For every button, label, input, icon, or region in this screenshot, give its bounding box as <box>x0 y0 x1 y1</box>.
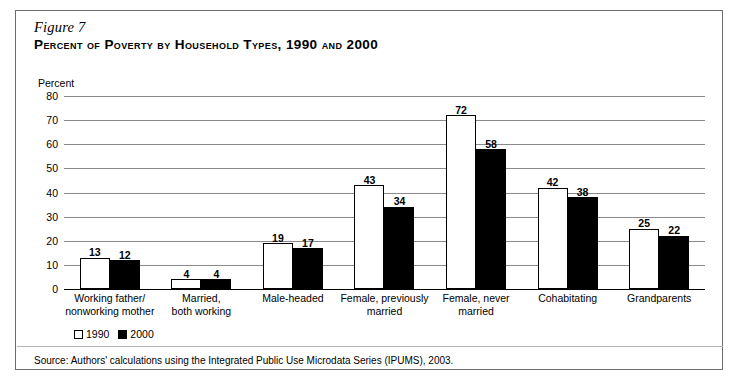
y-tick-label: 20 <box>46 236 58 247</box>
legend-item-2000[interactable]: 2000 <box>118 329 153 340</box>
x-tick-label-line: nonworking mother <box>64 305 156 318</box>
x-tick-label-line: Working father/ <box>64 292 156 305</box>
y-tick-label: 40 <box>46 187 58 198</box>
x-tick-label-line: married <box>430 305 522 318</box>
x-tick-label-line: both working <box>156 305 248 318</box>
bar-1990[interactable]: 43 <box>354 185 384 289</box>
x-tick-label-line: married <box>339 305 431 318</box>
bar-value-label: 42 <box>547 177 559 188</box>
source-note: Source: Authors' calculations using the … <box>34 355 453 366</box>
bar-1990[interactable]: 19 <box>263 243 293 289</box>
bars-layer: 13124419174334725842382522 <box>64 96 705 289</box>
white-square-icon <box>74 330 83 339</box>
bar-value-label: 17 <box>302 238 314 249</box>
y-tick-label: 10 <box>46 260 58 271</box>
bar-2000[interactable]: 12 <box>110 260 140 289</box>
x-tick-label: Female, previouslymarried <box>339 292 431 317</box>
y-axis-label: Percent <box>38 77 74 89</box>
chart-legend: 19902000 <box>74 329 154 340</box>
bar-2000[interactable]: 4 <box>201 279 231 289</box>
bar-value-label: 4 <box>183 269 189 280</box>
figure-frame: Figure 7 Percent of Poverty by Household… <box>15 10 723 370</box>
axis-baseline: 0 <box>64 289 705 290</box>
bar-1990[interactable]: 72 <box>446 115 476 289</box>
bar-value-label: 38 <box>577 187 589 198</box>
bar-value-label: 22 <box>668 225 680 236</box>
x-tick-label-line: Cohabitating <box>522 292 614 305</box>
bar-value-label: 34 <box>394 196 406 207</box>
bar-value-label: 58 <box>485 139 497 150</box>
plot-area: 01020304050607080 1312441917433472584238… <box>64 96 705 289</box>
bar-value-label: 72 <box>455 105 467 116</box>
bar-1990[interactable]: 42 <box>538 188 568 289</box>
bar-group: 1312 <box>64 96 156 289</box>
black-square-icon <box>118 330 127 339</box>
x-tick-label-line: Female, never <box>430 292 522 305</box>
x-tick-label-line: Grandparents <box>613 292 705 305</box>
x-tick-label: Male-headed <box>247 292 339 305</box>
bar-2000[interactable]: 22 <box>659 236 689 289</box>
bar-1990[interactable]: 25 <box>629 229 659 289</box>
bar-group: 2522 <box>613 96 705 289</box>
y-tick-label: 80 <box>46 91 58 102</box>
x-tick-label: Female, nevermarried <box>430 292 522 317</box>
legend-item-1990[interactable]: 1990 <box>74 329 109 340</box>
y-tick-label: 50 <box>46 163 58 174</box>
x-tick-label-line: Married, <box>156 292 248 305</box>
x-tick-label-line: Female, previously <box>339 292 431 305</box>
bar-chart: Percent 01020304050607080 13124419174334… <box>16 11 724 371</box>
bar-value-label: 13 <box>89 247 101 258</box>
bar-2000[interactable]: 38 <box>568 197 598 289</box>
bar-value-label: 4 <box>213 269 219 280</box>
bar-2000[interactable]: 58 <box>476 149 506 289</box>
bar-value-label: 25 <box>638 218 650 229</box>
bar-value-label: 19 <box>272 233 284 244</box>
bar-group: 7258 <box>430 96 522 289</box>
bar-group: 4238 <box>522 96 614 289</box>
bar-value-label: 43 <box>364 175 376 186</box>
y-tick-label: 0 <box>52 284 58 295</box>
bar-1990[interactable]: 4 <box>171 279 201 289</box>
x-tick-label-line: Male-headed <box>247 292 339 305</box>
bar-group: 1917 <box>247 96 339 289</box>
bar-value-label: 12 <box>119 250 131 261</box>
x-tick-label: Working father/nonworking mother <box>64 292 156 317</box>
legend-label: 2000 <box>130 329 153 340</box>
y-tick-label: 70 <box>46 115 58 126</box>
source-divider <box>17 346 723 347</box>
x-tick-label: Married,both working <box>156 292 248 317</box>
bar-2000[interactable]: 17 <box>293 248 323 289</box>
y-tick-label: 30 <box>46 211 58 222</box>
bar-group: 44 <box>156 96 248 289</box>
bar-group: 4334 <box>339 96 431 289</box>
legend-label: 1990 <box>86 329 109 340</box>
y-tick-label: 60 <box>46 139 58 150</box>
x-tick-label: Cohabitating <box>522 292 614 305</box>
bar-2000[interactable]: 34 <box>384 207 414 289</box>
x-axis-tick-labels: Working father/nonworking motherMarried,… <box>64 292 705 326</box>
x-tick-label: Grandparents <box>613 292 705 305</box>
bar-1990[interactable]: 13 <box>80 258 110 289</box>
